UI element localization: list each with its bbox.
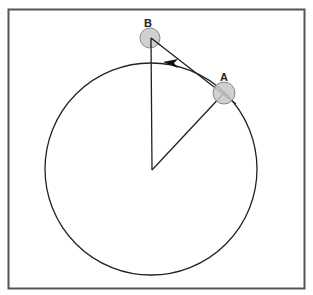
label-a: A — [220, 71, 228, 83]
radius-to-b — [151, 38, 152, 170]
ball-a — [213, 82, 235, 104]
label-b: B — [144, 17, 152, 29]
diagram-frame — [9, 10, 305, 289]
circular-motion-diagram: B A — [0, 0, 313, 295]
ball-b — [140, 28, 160, 48]
radius-to-a — [152, 93, 224, 170]
